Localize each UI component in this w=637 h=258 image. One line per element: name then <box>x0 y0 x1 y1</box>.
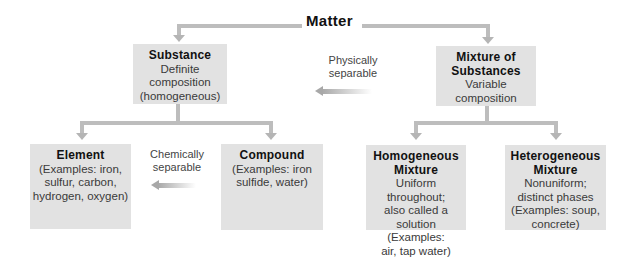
node-title: Mixture <box>366 164 466 178</box>
node-title: Element <box>30 149 131 163</box>
node-desc: composition <box>436 92 536 106</box>
node-heterogeneous-mixture: Heterogeneous Mixture Nonuniform; distin… <box>505 145 606 230</box>
node-desc: also called a <box>366 204 466 218</box>
node-desc: Nonuniform; <box>505 177 606 191</box>
annotation-chemically-separable: Chemically separable <box>143 148 211 174</box>
node-title: Homogeneous <box>366 150 466 164</box>
node-desc: solution (Examples: <box>366 218 466 245</box>
node-desc: (homogeneous) <box>133 90 227 104</box>
node-title: Substance <box>133 49 227 63</box>
connector-substance-branch <box>80 121 273 125</box>
node-mixture-of-substances: Mixture of Substances Variable compositi… <box>436 46 536 106</box>
annotation-line: separable <box>143 161 211 174</box>
annotation-line: Physically <box>318 54 388 67</box>
node-desc: (Examples: soup, <box>505 204 606 218</box>
arrow-down-icon <box>265 133 277 140</box>
node-desc: air, tap water) <box>366 245 466 258</box>
connector-mixture-branch <box>414 121 558 125</box>
node-desc: Definite <box>133 63 227 77</box>
arrow-down-icon <box>173 35 185 42</box>
node-desc: Uniform throughout; <box>366 177 466 204</box>
node-title: Substances <box>436 65 536 79</box>
node-desc: Variable <box>436 78 536 92</box>
connector-matter-right <box>362 24 490 28</box>
node-desc: sulfide, water) <box>221 176 323 190</box>
annotation-line: Chemically <box>143 148 211 161</box>
connector-drop-mixture <box>486 24 490 38</box>
arrow-down-icon <box>410 133 422 140</box>
node-desc: (Examples: iron, <box>30 163 131 177</box>
arrow-down-icon <box>550 133 562 140</box>
node-desc: concrete) <box>505 218 606 232</box>
node-element: Element (Examples: iron, sulfur, carbon,… <box>30 144 131 229</box>
node-title: Heterogeneous <box>505 150 606 164</box>
annotation-physically-separable: Physically separable <box>318 54 388 80</box>
arrow-left-icon <box>322 89 372 94</box>
annotation-line: separable <box>318 67 388 80</box>
root-node-matter: Matter <box>302 12 357 29</box>
node-title: Compound <box>221 149 323 163</box>
node-substance: Substance Definite composition (homogene… <box>133 44 227 104</box>
node-title: Mixture <box>505 164 606 178</box>
node-title: Mixture of <box>436 51 536 65</box>
arrow-down-icon <box>482 37 494 44</box>
arrow-left-icon <box>158 183 196 188</box>
node-desc: composition <box>133 76 227 90</box>
node-homogeneous-mixture: Homogeneous Mixture Uniform throughout; … <box>366 145 466 230</box>
node-compound: Compound (Examples: iron sulfide, water) <box>221 144 323 230</box>
node-desc: distinct phases <box>505 191 606 205</box>
node-desc: sulfur, carbon, <box>30 176 131 190</box>
arrow-down-icon <box>76 133 88 140</box>
node-desc: hydrogen, oxygen) <box>30 190 131 204</box>
connector-matter-left <box>177 24 303 28</box>
node-desc: (Examples: iron <box>221 163 323 177</box>
